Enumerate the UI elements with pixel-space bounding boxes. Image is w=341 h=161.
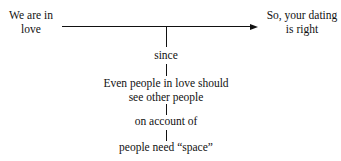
on-account-of-connector: on account of: [116, 114, 216, 128]
claim-line-2: love: [6, 22, 56, 36]
backing-text: people need “space”: [106, 140, 226, 154]
main-arrow-line: [62, 26, 252, 27]
since-connector: since: [126, 48, 206, 62]
conclusion-text: So, your dating is right: [263, 8, 341, 36]
arrowhead-icon: [250, 24, 258, 30]
warrant-text: Even people in love should see other peo…: [96, 76, 236, 104]
connector-line-1: [166, 64, 167, 76]
conclusion-line-1: So, your dating: [263, 8, 341, 22]
conclusion-line-2: is right: [263, 22, 341, 36]
warrant-stem: [166, 26, 167, 47]
claim-text: We are in love: [6, 8, 56, 36]
claim-line-1: We are in: [6, 8, 56, 22]
warrant-line-1: Even people in love should: [96, 76, 236, 90]
warrant-line-2: see other people: [96, 90, 236, 104]
